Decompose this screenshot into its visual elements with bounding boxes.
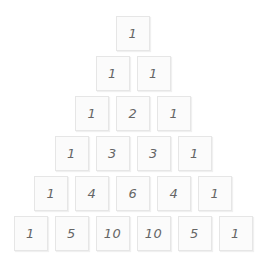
triangle-cell: 4 xyxy=(75,176,109,211)
triangle-cell: 5 xyxy=(178,216,212,251)
triangle-cell: 6 xyxy=(116,176,150,211)
triangle-cell: 1 xyxy=(14,216,48,251)
triangle-cell: 1 xyxy=(96,56,130,91)
triangle-cell: 1 xyxy=(55,136,89,171)
triangle-cell: 5 xyxy=(55,216,89,251)
triangle-cell: 1 xyxy=(116,16,150,51)
triangle-cell: 10 xyxy=(137,216,171,251)
triangle-cell: 1 xyxy=(157,96,191,131)
triangle-cell: 2 xyxy=(116,96,150,131)
triangle-cell: 1 xyxy=(75,96,109,131)
triangle-cell: 3 xyxy=(137,136,171,171)
pascal-triangle: 11112113311464115101051 xyxy=(0,0,268,264)
triangle-cell: 1 xyxy=(198,176,232,211)
triangle-cell: 1 xyxy=(34,176,68,211)
triangle-cell: 1 xyxy=(219,216,253,251)
triangle-cell: 3 xyxy=(96,136,130,171)
triangle-cell: 1 xyxy=(137,56,171,91)
triangle-cell: 1 xyxy=(178,136,212,171)
triangle-cell: 10 xyxy=(96,216,130,251)
triangle-cell: 4 xyxy=(157,176,191,211)
